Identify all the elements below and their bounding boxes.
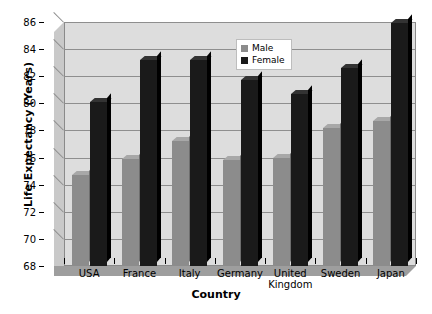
gridline-riser bbox=[54, 93, 64, 103]
legend: Male Female bbox=[236, 39, 292, 70]
legend-swatch-male-icon bbox=[241, 45, 248, 52]
y-tick-label: 72 bbox=[10, 208, 36, 218]
bar-face bbox=[90, 102, 107, 266]
bar-side bbox=[408, 15, 412, 262]
y-tick-mark bbox=[39, 76, 44, 77]
bar-side bbox=[207, 51, 211, 262]
bar-female-sweden bbox=[341, 68, 358, 266]
y-tick-label: 68 bbox=[10, 262, 36, 272]
y-tick-label: 74 bbox=[10, 181, 36, 191]
gridline-riser bbox=[54, 175, 64, 185]
x-tick-mark bbox=[64, 258, 65, 264]
bar-face bbox=[122, 159, 139, 266]
y-tick-mark bbox=[39, 103, 44, 104]
bar-female-united-kingdom bbox=[291, 94, 308, 266]
y-tick-label: 80 bbox=[10, 99, 36, 109]
bar-side bbox=[107, 93, 111, 262]
x-tick-label-line: Japan bbox=[351, 268, 431, 279]
bar-female-france bbox=[140, 60, 157, 266]
y-tick-label: 82 bbox=[10, 72, 36, 82]
y-tick-label: 78 bbox=[10, 126, 36, 136]
x-tick-mark bbox=[165, 258, 166, 264]
legend-label-female: Female bbox=[252, 54, 285, 66]
y-tick-mark bbox=[39, 22, 44, 23]
y-tick-label: 70 bbox=[10, 235, 36, 245]
y-tick-label: 76 bbox=[10, 154, 36, 164]
y-tick-mark bbox=[39, 212, 44, 213]
x-tick-mark bbox=[265, 258, 266, 264]
bar-male-united-kingdom bbox=[273, 158, 290, 266]
gridline-riser bbox=[54, 39, 64, 49]
y-tick-mark bbox=[39, 185, 44, 186]
x-tick-mark bbox=[215, 258, 216, 264]
bar-chart: Life Expectancy (Years) Country 68707274… bbox=[0, 0, 432, 314]
bar-male-usa bbox=[72, 175, 89, 266]
y-tick-mark bbox=[39, 130, 44, 131]
gridline-riser bbox=[54, 12, 64, 22]
x-tick-mark bbox=[315, 258, 316, 264]
bar-face bbox=[241, 80, 258, 266]
bar-face bbox=[72, 175, 89, 266]
x-tick-label: Japan bbox=[351, 268, 431, 279]
bar-female-italy bbox=[190, 60, 207, 266]
y-tick-label: 86 bbox=[10, 18, 36, 28]
bar-face bbox=[323, 128, 340, 266]
gridline-riser bbox=[54, 202, 64, 212]
bar-face bbox=[291, 94, 308, 266]
y-tick-label: 84 bbox=[10, 45, 36, 55]
x-tick-mark bbox=[114, 258, 115, 264]
bar-male-france bbox=[122, 159, 139, 266]
bar-face bbox=[190, 60, 207, 266]
legend-swatch-female-icon bbox=[241, 57, 248, 64]
legend-item-female: Female bbox=[241, 54, 285, 66]
gridline-riser bbox=[54, 148, 64, 158]
gridline-riser bbox=[54, 229, 64, 239]
y-tick-mark bbox=[39, 239, 44, 240]
bar-side bbox=[157, 51, 161, 262]
bar-face bbox=[373, 121, 390, 266]
bar-side bbox=[258, 72, 262, 262]
gridline bbox=[64, 22, 416, 23]
bar-female-japan bbox=[391, 23, 408, 266]
bar-side bbox=[358, 59, 362, 262]
x-tick-mark bbox=[416, 258, 417, 264]
legend-label-male: Male bbox=[252, 42, 273, 54]
bar-face bbox=[273, 158, 290, 266]
bar-female-germany bbox=[241, 80, 258, 266]
bar-male-japan bbox=[373, 121, 390, 266]
y-tick-mark bbox=[39, 158, 44, 159]
bar-male-germany bbox=[223, 160, 240, 266]
bar-face bbox=[140, 60, 157, 266]
y-tick-mark bbox=[39, 49, 44, 50]
gridline-riser bbox=[54, 66, 64, 76]
x-tick-label-line: Kingdom bbox=[250, 279, 330, 290]
bar-face bbox=[172, 141, 189, 266]
bar-face bbox=[391, 23, 408, 266]
x-axis-title: Country bbox=[0, 288, 432, 301]
x-tick-mark bbox=[366, 258, 367, 264]
bar-face bbox=[223, 160, 240, 266]
bar-male-sweden bbox=[323, 128, 340, 266]
bar-female-usa bbox=[90, 102, 107, 266]
bar-side bbox=[308, 85, 312, 262]
gridline-riser bbox=[54, 120, 64, 130]
bar-male-italy bbox=[172, 141, 189, 266]
y-tick-mark bbox=[39, 266, 44, 267]
legend-item-male: Male bbox=[241, 42, 285, 54]
gridline bbox=[64, 76, 416, 77]
bar-face bbox=[341, 68, 358, 266]
